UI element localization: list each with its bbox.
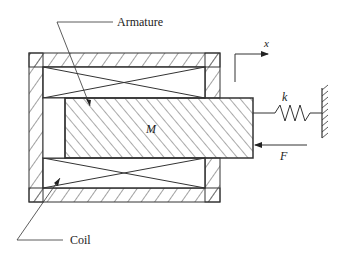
coil-label: Coil (70, 233, 91, 247)
x-label: x (263, 37, 269, 49)
spring-constant-label: k (282, 90, 288, 104)
solenoid-diagram: M k F x Armature Coil (0, 0, 347, 260)
armature-label: Armature (117, 15, 163, 29)
x-axis: x (235, 37, 269, 82)
air-gap (43, 98, 65, 158)
ground-wall (322, 85, 328, 138)
coil-top (43, 67, 205, 98)
armature: M (65, 98, 253, 158)
force-arrow: F (255, 145, 307, 163)
coil-bottom (43, 158, 205, 188)
mass-label: M (145, 122, 157, 136)
spring: k (253, 90, 322, 121)
force-label: F (279, 149, 288, 163)
